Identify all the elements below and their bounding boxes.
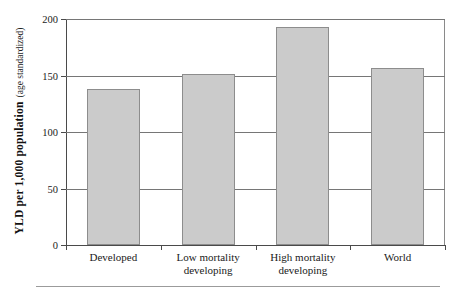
y-axis-tick-mark: [61, 132, 66, 133]
x-axis-category-label-line: High mortality: [270, 251, 335, 264]
x-axis-category-label-line: World: [384, 251, 411, 264]
y-axis-tick-label: 200: [42, 14, 58, 25]
chart-figure: YLD per 1,000 population (age standardiz…: [0, 0, 454, 296]
y-axis-tick-mark: [61, 19, 66, 20]
gridline: [66, 19, 445, 20]
x-axis-tick-mark-origin: [66, 245, 67, 250]
x-axis-category-label-line: developing: [270, 264, 335, 277]
x-axis-category-label: World: [384, 251, 411, 264]
x-axis-category-label: Low mortalitydeveloping: [177, 251, 240, 277]
x-axis-tick-mark: [350, 245, 351, 250]
y-axis-title-sub: (age standardized): [15, 27, 25, 97]
x-axis-tick-mark: [161, 245, 162, 250]
x-axis-category-label: High mortalitydeveloping: [270, 251, 335, 277]
y-axis-tick-mark: [61, 76, 66, 77]
plot-area: 050100150200 DevelopedLow mortalitydevel…: [66, 19, 445, 245]
x-axis-tick-mark: [256, 245, 257, 250]
y-axis-tick-label: 0: [53, 240, 58, 251]
y-axis-title: YLD per 1,000 population (age standardiz…: [2, 28, 36, 233]
footer-rule: [36, 286, 440, 287]
x-axis-category-label-line: Low mortality: [177, 251, 240, 264]
x-axis-tick-mark: [445, 245, 446, 250]
bar: [87, 89, 140, 245]
bar: [371, 68, 424, 245]
y-axis-tick-mark: [61, 189, 66, 190]
y-axis-title-main: YLD per 1,000 population: [13, 101, 25, 234]
bar: [182, 74, 235, 245]
y-axis-tick-label: 100: [42, 127, 58, 138]
y-axis-tick-label: 50: [48, 183, 59, 194]
x-axis-category-label-line: developing: [177, 264, 240, 277]
y-axis-title-rotated: YLD per 1,000 population (age standardiz…: [13, 27, 25, 234]
bar: [276, 27, 329, 245]
x-axis-category-label-line: Developed: [90, 251, 138, 264]
x-axis-category-label: Developed: [90, 251, 138, 264]
y-axis-tick-label: 150: [42, 70, 58, 81]
